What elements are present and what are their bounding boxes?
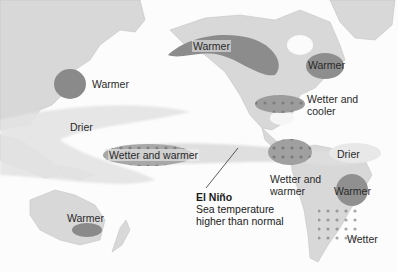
label-us-south-cooler: cooler [307, 105, 336, 117]
caption-line-2: higher than normal [196, 215, 284, 227]
label-south-america-west-wetter: Wetter and [270, 173, 321, 185]
label-central-pacific: Wetter and warmer [108, 149, 199, 161]
label-east-asia-warmer: Warmer [92, 78, 129, 90]
el-nino-map: Warmer Warmer Warmer Wetter and cooler D… [0, 0, 398, 272]
east-asia-warm-region [54, 69, 86, 99]
label-northern-south-america-drier: Drier [337, 148, 360, 160]
label-indonesia-drier: Drier [70, 121, 93, 133]
gulf-of-mexico [270, 111, 294, 125]
label-brazil-warmer: Warmer [334, 185, 371, 197]
el-nino-caption: El Niño Sea temperature higher than norm… [196, 191, 284, 227]
caption-line-1: Sea temperature [196, 203, 284, 215]
label-alaska-canada-warmer: Warmer [192, 40, 231, 52]
australia-warm-region [72, 223, 102, 237]
label-atlantic-canada-warmer: Warmer [308, 59, 345, 71]
label-australia-warmer: Warmer [67, 212, 104, 224]
label-southeast-south-america-wetter: Wetter [347, 233, 378, 245]
label-us-south-wetter: Wetter and [307, 93, 358, 105]
caption-title: El Niño [196, 191, 284, 203]
hudson-bay [287, 35, 313, 55]
